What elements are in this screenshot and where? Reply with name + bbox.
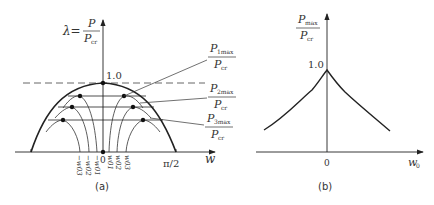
svg-text:max: max xyxy=(305,19,318,26)
panel-b: P max P cr 1.0 0 w 0 (b) xyxy=(256,13,423,192)
svg-text:−w02: −w02 xyxy=(84,155,92,176)
panel-a-callout-3: P 3max P cr xyxy=(205,112,233,141)
svg-text:2max: 2max xyxy=(217,88,234,95)
panel-a: λ= P P cr 1.0 P 1max P cr P 2max P cr P … xyxy=(15,17,236,192)
figure-canvas: λ= P P cr 1.0 P 1max P cr P 2max P cr P … xyxy=(0,0,434,205)
svg-text:w01: w01 xyxy=(106,155,114,170)
panel-a-callout-2: P 2max P cr xyxy=(208,82,236,111)
panel-a-peak-label: 1.0 xyxy=(106,70,122,81)
svg-text:w03: w03 xyxy=(123,155,131,170)
svg-text:−w01: −w01 xyxy=(93,155,101,176)
panel-a-right-curves xyxy=(109,96,160,152)
panel-a-caption: (a) xyxy=(95,181,109,192)
svg-text:cr: cr xyxy=(307,35,313,42)
svg-text:cr: cr xyxy=(218,134,224,141)
panel-a-pi-half-label: π/2 xyxy=(163,158,179,169)
panel-a-left-curves xyxy=(46,96,97,152)
svg-text:1max: 1max xyxy=(217,48,234,55)
panel-a-envelope-curve xyxy=(31,83,176,152)
svg-text:w02: w02 xyxy=(114,155,122,170)
svg-text:−w03: −w03 xyxy=(75,155,83,176)
panel-a-x-axis-label: w xyxy=(205,152,216,166)
panel-a-callout-1: P 1max P cr xyxy=(208,42,236,71)
panel-b-origin-label: 0 xyxy=(324,158,330,168)
svg-text:3max: 3max xyxy=(214,118,231,125)
panel-b-peak-label: 1.0 xyxy=(308,59,324,70)
panel-a-y-axis-label: λ= P P cr xyxy=(62,17,100,45)
svg-text:λ=: λ= xyxy=(62,24,81,38)
svg-text:cr: cr xyxy=(91,38,97,45)
svg-text:P: P xyxy=(87,17,96,30)
svg-text:cr: cr xyxy=(221,64,227,71)
panel-b-caption: (b) xyxy=(318,181,332,192)
panel-b-x-axis-label: w 0 xyxy=(408,156,420,169)
panel-b-y-axis-label: P max P cr xyxy=(296,13,320,42)
svg-text:cr: cr xyxy=(221,104,227,111)
svg-text:0: 0 xyxy=(416,162,420,169)
